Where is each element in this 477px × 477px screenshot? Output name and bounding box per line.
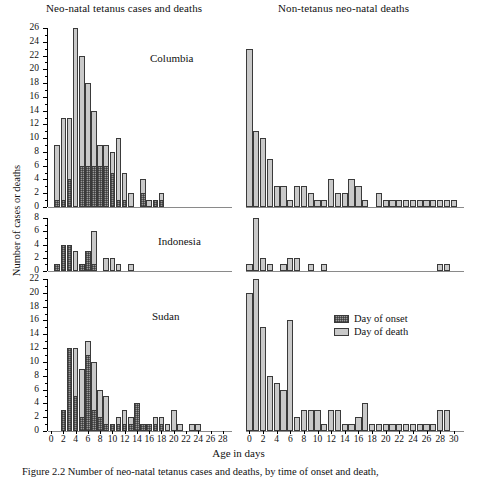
x-axis-line bbox=[246, 271, 464, 272]
bar-day-of-death bbox=[171, 410, 177, 431]
y-tick-label: 12 bbox=[23, 119, 39, 128]
bar-day-of-death bbox=[54, 145, 60, 207]
y-tick-major bbox=[43, 258, 47, 259]
bar-day-of-death bbox=[314, 200, 320, 207]
y-tick-minor bbox=[45, 264, 48, 265]
y-tick-major bbox=[43, 193, 47, 194]
bar-day-of-death bbox=[301, 186, 307, 207]
y-tick-major bbox=[43, 42, 47, 43]
y-tick-label: 6 bbox=[23, 385, 39, 394]
y-tick-label: 2 bbox=[23, 188, 39, 197]
y-tick-minor bbox=[45, 341, 48, 342]
bar-day-of-death bbox=[61, 118, 67, 208]
y-tick-minor bbox=[45, 186, 48, 187]
bar-day-of-onset bbox=[140, 193, 146, 207]
bar-day-of-death bbox=[389, 424, 395, 431]
y-axis-line bbox=[47, 218, 48, 271]
bar-day-of-death bbox=[328, 179, 334, 207]
y-tick-label: 10 bbox=[23, 133, 39, 142]
y-tick-minor bbox=[45, 104, 48, 105]
bar-day-of-death bbox=[321, 200, 327, 207]
bar-day-of-death bbox=[383, 200, 389, 207]
y-tick-major bbox=[43, 28, 47, 29]
bar-day-of-onset bbox=[79, 417, 85, 431]
bar-day-of-death bbox=[335, 410, 341, 431]
y-tick-minor bbox=[45, 286, 48, 287]
figure-caption: Figure 2.2 Number of neo-natal tetanus c… bbox=[22, 466, 477, 477]
y-tick-major bbox=[43, 97, 47, 98]
bar-day-of-death bbox=[321, 264, 327, 271]
bar-day-of-onset bbox=[67, 348, 73, 431]
y-tick-major bbox=[43, 271, 47, 272]
x-axis-label: Age in days bbox=[0, 447, 477, 459]
column-title-right: Non-tetanus neo-natal deaths bbox=[278, 2, 409, 14]
panel-label-columbia: Columbia bbox=[150, 52, 193, 64]
y-tick-label: 14 bbox=[23, 329, 39, 338]
y-tick-label: 24 bbox=[23, 37, 39, 46]
y-tick-label: 14 bbox=[23, 106, 39, 115]
y-tick-minor bbox=[45, 410, 48, 411]
bar-day-of-death bbox=[444, 410, 450, 431]
panel-label-sudan: Sudan bbox=[152, 310, 180, 322]
y-tick-major bbox=[43, 231, 47, 232]
x-tick-label: 30 bbox=[445, 435, 463, 444]
bar-day-of-death bbox=[376, 424, 382, 431]
y-tick-minor bbox=[45, 225, 48, 226]
bar-day-of-death bbox=[417, 424, 423, 431]
y-tick-minor bbox=[45, 355, 48, 356]
y-tick-major bbox=[43, 245, 47, 246]
y-tick-label: 6 bbox=[23, 161, 39, 170]
bar-day-of-death bbox=[348, 424, 354, 431]
y-tick-major bbox=[43, 166, 47, 167]
bar-day-of-death bbox=[253, 279, 259, 431]
y-axis-line bbox=[47, 279, 48, 431]
bar-day-of-death bbox=[73, 251, 79, 271]
bar-day-of-death bbox=[321, 424, 327, 431]
bar-day-of-death bbox=[396, 424, 402, 431]
bar-day-of-death bbox=[253, 131, 259, 207]
bar-day-of-death bbox=[195, 424, 201, 431]
x-axis-line bbox=[246, 431, 464, 432]
figure-root: Neo-natal tetanus cases and deaths Non-t… bbox=[0, 0, 477, 477]
bar-day-of-death bbox=[430, 424, 436, 431]
bar-day-of-death bbox=[246, 293, 252, 431]
bar-day-of-death bbox=[116, 264, 122, 271]
bar-day-of-death bbox=[308, 410, 314, 431]
legend-item-death: Day of death bbox=[334, 325, 408, 338]
bar-day-of-onset bbox=[153, 424, 159, 431]
bar-day-of-onset bbox=[134, 403, 140, 431]
y-tick-label: 8 bbox=[23, 147, 39, 156]
y-tick-label: 2 bbox=[23, 253, 39, 262]
y-tick-minor bbox=[45, 118, 48, 119]
bar-day-of-death bbox=[314, 410, 320, 431]
bar-day-of-onset bbox=[128, 424, 134, 431]
bar-day-of-onset bbox=[61, 200, 67, 207]
y-tick-minor bbox=[45, 314, 48, 315]
y-tick-major bbox=[43, 138, 47, 139]
bar-day-of-death bbox=[410, 200, 416, 207]
y-tick-minor bbox=[45, 369, 48, 370]
y-tick-minor bbox=[45, 145, 48, 146]
bar-day-of-onset bbox=[153, 200, 159, 207]
bar-day-of-death bbox=[437, 200, 443, 207]
y-tick-label: 22 bbox=[23, 51, 39, 60]
bar-day-of-onset bbox=[122, 200, 128, 207]
legend-label-death: Day of death bbox=[354, 326, 408, 337]
y-tick-major bbox=[43, 431, 47, 432]
bar-day-of-onset bbox=[146, 424, 152, 431]
y-tick-label: 26 bbox=[23, 23, 39, 32]
bar-day-of-onset bbox=[61, 245, 67, 272]
y-tick-major bbox=[43, 403, 47, 404]
y-tick-major bbox=[43, 218, 47, 219]
y-tick-major bbox=[43, 334, 47, 335]
y-tick-label: 0 bbox=[23, 202, 39, 211]
y-tick-minor bbox=[45, 173, 48, 174]
bar-day-of-death bbox=[267, 159, 273, 207]
bar-day-of-onset bbox=[91, 264, 97, 271]
y-tick-major bbox=[43, 348, 47, 349]
legend-swatch-death bbox=[334, 328, 349, 336]
bar-day-of-death bbox=[280, 390, 286, 431]
bar-day-of-death bbox=[294, 258, 300, 271]
bar-day-of-death bbox=[308, 264, 314, 271]
bar-day-of-death bbox=[417, 200, 423, 207]
